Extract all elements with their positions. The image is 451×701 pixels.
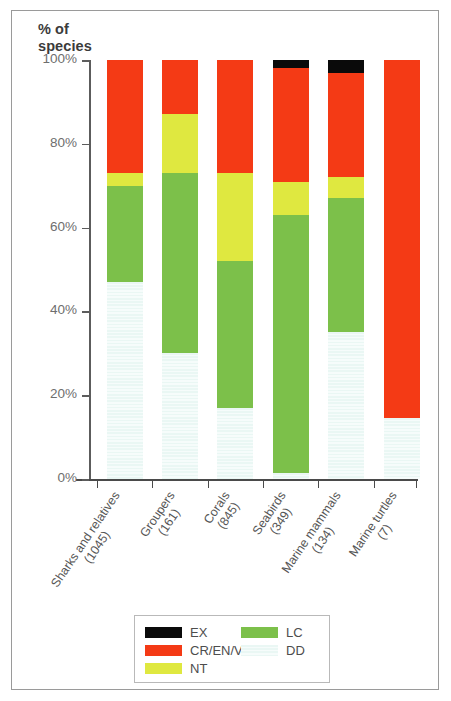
x-axis-tick-mark [152,480,153,488]
y-axis-tick-mark [82,479,89,481]
chart-figure: % of species 0%20%40%60%80%100% Sharks a… [11,10,439,690]
y-axis-tick-mark [82,228,89,230]
x-axis-tick-mark [416,480,417,488]
y-axis-tick-label: 20% [50,386,77,401]
y-axis-title: % of species [38,21,92,55]
bar-segment-dd [273,473,309,479]
x-axis-label-4: Seabirds(349) [250,489,301,545]
bar-4 [273,60,309,479]
bar-segment-dd [328,332,364,479]
legend-label: LC [286,625,303,640]
legend-swatch-ex [145,627,182,638]
legend-item-nt[interactable]: NT [145,660,252,677]
legend-item-dd[interactable]: DD [241,642,305,659]
bar-segment-nt [273,182,309,216]
x-axis-label-3: Corals(845) [201,489,244,534]
bar-segment-cr-en-vu [107,60,143,173]
x-axis-tick-mark [263,480,264,488]
bar-segment-nt [217,173,253,261]
x-axis-tick-mark [208,480,209,488]
y-axis-tick-mark [82,144,89,146]
bar-segment-nt [328,177,364,198]
legend-swatch-cr-en-vu [145,645,182,656]
y-axis-tick-label: 0% [57,470,77,485]
y-axis-tick-label: 100% [42,51,77,66]
legend-item-cr-en-vu[interactable]: CR/EN/VU [145,642,252,659]
y-axis-tick-label: 60% [50,219,77,234]
bar-1 [107,60,143,479]
legend-label: NT [190,661,207,676]
bar-segment-cr-en-vu [328,73,364,178]
legend-item-lc[interactable]: LC [241,624,305,641]
bar-segment-dd [107,282,143,479]
bar-segment-ex [273,60,309,68]
legend-label: EX [190,625,207,640]
bar-segment-nt [162,114,198,173]
bar-segment-lc [328,198,364,332]
bar-2 [162,60,198,479]
x-axis-line [76,479,418,481]
bar-6 [384,60,420,479]
bar-segment-cr-en-vu [217,60,253,173]
bar-segment-lc [107,186,143,282]
x-axis-tick-mark [374,480,375,488]
plot-area [90,60,410,479]
y-axis-tick-label: 40% [50,302,77,317]
bar-segment-dd [384,418,420,479]
bar-segment-cr-en-vu [384,60,420,418]
legend-swatch-lc [241,627,278,638]
bar-segment-cr-en-vu [162,60,198,114]
legend-item-ex[interactable]: EX [145,624,252,641]
legend-swatch-nt [145,663,182,674]
x-axis-tick-mark [97,480,98,488]
bar-segment-nt [107,173,143,186]
x-axis-label-2: Groupers(161) [137,489,189,547]
bar-segment-lc [162,173,198,353]
bar-segment-lc [217,261,253,408]
x-axis-label-6: Marine turtles(7) [346,489,411,567]
bar-5 [328,60,364,479]
y-axis-tick-mark [82,60,89,62]
chart-legend: EXCR/EN/VUNT LCDD [134,615,330,683]
x-axis-label-1: Sharks and relatives(1045) [48,489,134,598]
bar-segment-dd [217,408,253,479]
x-axis-tick-mark [318,480,319,488]
bar-segment-dd [162,353,198,479]
bar-segment-ex [328,60,364,73]
y-axis-tick-mark [82,395,89,397]
bar-segment-lc [273,215,309,473]
y-axis-title-line1: % of [38,21,92,38]
y-axis-tick-mark [82,311,89,313]
bar-3 [217,60,253,479]
y-axis-tick-label: 80% [50,135,77,150]
bar-segment-cr-en-vu [273,68,309,181]
legend-label: DD [286,643,305,658]
legend-column-left: EXCR/EN/VUNT [145,624,252,678]
legend-swatch-dd [241,645,278,656]
legend-column-right: LCDD [241,624,305,660]
